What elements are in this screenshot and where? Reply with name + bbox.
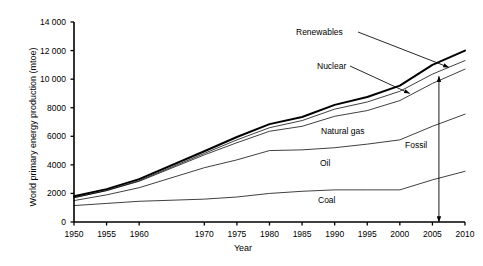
xtick-label-1950: 1950 bbox=[65, 230, 84, 239]
xtick-label-1980: 1980 bbox=[260, 230, 279, 239]
axis-lines bbox=[74, 22, 465, 222]
xtick-label-1960: 1960 bbox=[130, 230, 149, 239]
series-label-coal: Coal bbox=[318, 196, 335, 205]
xtick-label-2010: 2010 bbox=[456, 230, 475, 239]
x-axis-title: Year bbox=[203, 243, 283, 253]
xtick-label-1995: 1995 bbox=[358, 230, 377, 239]
leader-lines bbox=[350, 32, 449, 93]
chart-figure: 0 2000 4000 6000 8000 10 000 12 000 14 0… bbox=[0, 0, 483, 266]
ytick-label-14000: 14 000 bbox=[10, 18, 66, 27]
series-label-nuclear: Nuclear bbox=[317, 62, 346, 71]
ytick-label-10000: 10 000 bbox=[10, 75, 66, 84]
xtick-label-1970: 1970 bbox=[195, 230, 214, 239]
ytick-label-2000: 2000 bbox=[10, 189, 66, 198]
xtick-label-1975: 1975 bbox=[227, 230, 246, 239]
ytick-label-6000: 6000 bbox=[10, 132, 66, 141]
series-label-natural-gas: Natural gas bbox=[321, 127, 364, 136]
ytick-label-0: 0 bbox=[10, 218, 66, 227]
ytick-label-4000: 4000 bbox=[10, 161, 66, 170]
axis-ticks bbox=[71, 22, 466, 226]
chart-plot-area bbox=[0, 0, 483, 266]
xtick-label-1985: 1985 bbox=[293, 230, 312, 239]
xtick-label-2005: 2005 bbox=[423, 230, 442, 239]
annotation-label-fossil: Fossil bbox=[405, 141, 427, 150]
series-label-renewables: Renewables bbox=[296, 28, 343, 37]
xtick-label-2000: 2000 bbox=[390, 230, 409, 239]
y-axis-title: World primary energy production (mtoe) bbox=[28, 27, 38, 227]
series-label-oil: Oil bbox=[320, 159, 330, 168]
series-lines bbox=[74, 51, 465, 206]
xtick-label-1955: 1955 bbox=[97, 230, 116, 239]
ytick-label-8000: 8000 bbox=[10, 103, 66, 112]
ytick-label-12000: 12 000 bbox=[10, 46, 66, 55]
xtick-label-1990: 1990 bbox=[325, 230, 344, 239]
